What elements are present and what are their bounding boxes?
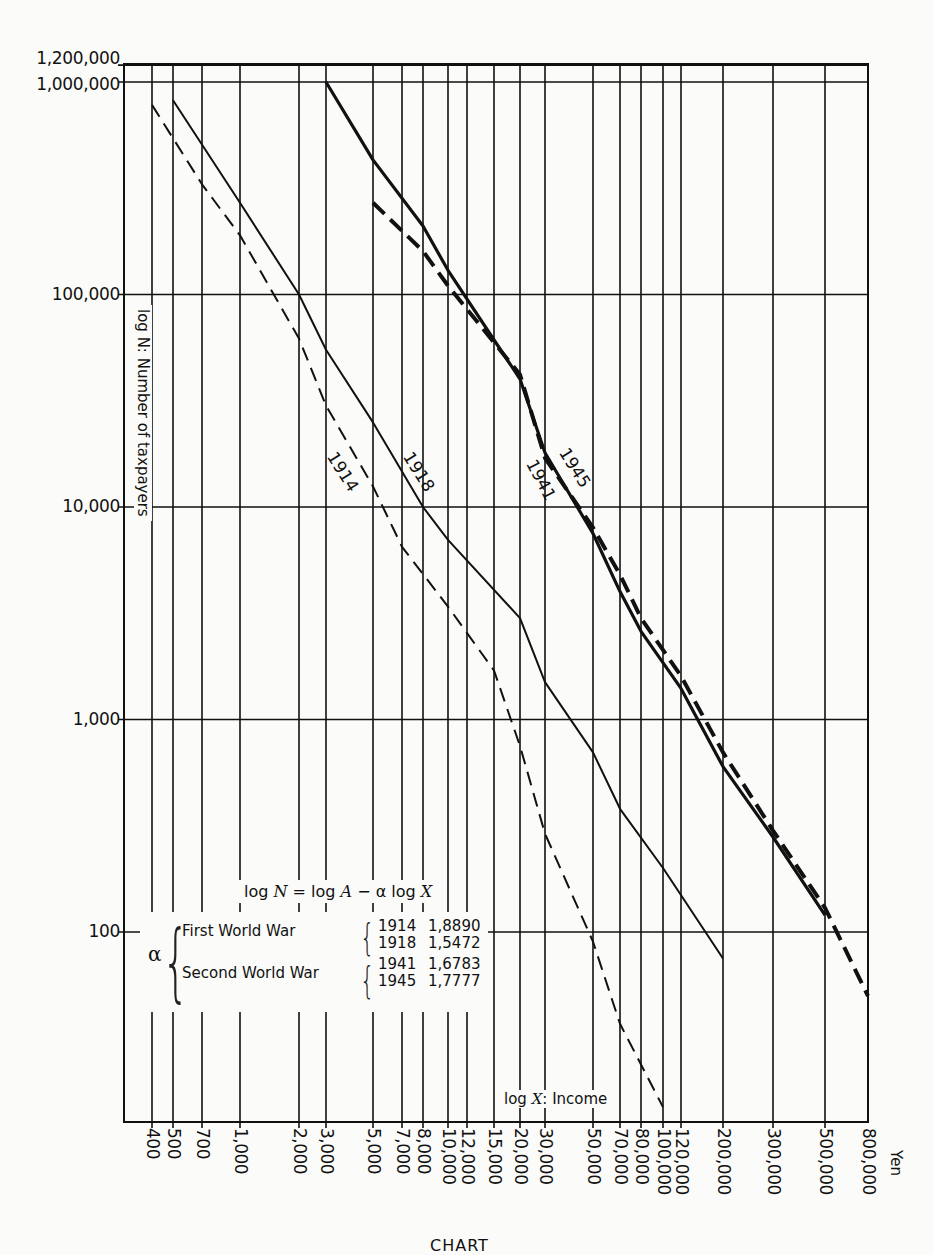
x-axis-title: log X: Income: [500, 1090, 611, 1108]
x-tick-label: 500,000: [817, 1128, 834, 1195]
year-1918: 1918: [378, 936, 416, 951]
x-tick-label: 10,000: [440, 1128, 457, 1184]
alpha-values: 1914 1,8890 1918 1,5472 1941 1,6783 1945…: [378, 912, 488, 1012]
alpha-1945: 1,7777: [428, 974, 481, 989]
x-tick-label: 70,000: [612, 1128, 629, 1184]
x-tick-label: 5,000: [365, 1128, 382, 1174]
alpha-1914: 1,8890: [428, 919, 481, 934]
year-1914: 1914: [378, 919, 416, 934]
formula: log N = log A − α log X: [238, 880, 438, 903]
x-tick-label: 7,000: [394, 1128, 411, 1174]
x-tick-label: 50,000: [585, 1128, 602, 1184]
x-tick-label: 100,000: [655, 1128, 672, 1195]
x-tick-label: 700: [194, 1128, 211, 1159]
y-tick-label: 1,000,000: [8, 74, 120, 94]
second-world-war-label: Second World War: [182, 964, 319, 982]
x-tick-label: 20,000: [512, 1128, 529, 1184]
x-tick-label: 1,000: [232, 1128, 249, 1174]
curve-1945: [326, 82, 825, 915]
alpha-1918: 1,5472: [428, 936, 481, 951]
x-tick-label: 30,000: [537, 1128, 554, 1184]
y-axis-title: log N: Number of taxpayers: [134, 305, 152, 521]
x-tick-label: 15,000: [486, 1128, 503, 1184]
y-tick-label: 100,000: [8, 284, 120, 304]
x-tick-label: 800,000: [860, 1128, 877, 1195]
x-tick-label: 12,000: [459, 1128, 476, 1184]
x-tick-label: 500: [165, 1128, 182, 1159]
chart-caption: CHART: [430, 1236, 489, 1255]
x-tick-label: 8,000: [415, 1128, 432, 1174]
y-tick-label: 1,000: [8, 709, 120, 729]
alpha-1941: 1,6783: [428, 957, 481, 972]
year-1941: 1941: [378, 957, 416, 972]
x-tick-label: 300,000: [765, 1128, 782, 1195]
x-tick-label: 400: [144, 1128, 161, 1159]
brace-second: {: [360, 961, 375, 999]
y-tick-label: 1,200,000: [8, 48, 120, 68]
y-tick-label: 100: [8, 921, 120, 941]
year-1945: 1945: [378, 974, 416, 989]
x-tick-label: 200,000: [715, 1128, 732, 1195]
y-tick-label: 10,000: [8, 496, 120, 516]
alpha-legend: { First World War Second World War { {: [140, 912, 390, 1012]
first-world-war-label: First World War: [182, 922, 295, 940]
x-tick-label: 2,000: [291, 1128, 308, 1174]
x-unit-label: Yen: [887, 1150, 905, 1176]
brace-first: {: [360, 918, 375, 956]
alpha-symbol: α: [148, 942, 162, 966]
x-tick-label: 3,000: [318, 1128, 335, 1174]
x-tick-label: 80,000: [633, 1128, 650, 1184]
x-tick-label: 120,000: [673, 1128, 690, 1195]
